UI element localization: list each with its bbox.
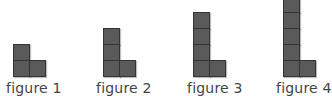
square <box>29 60 46 77</box>
square <box>119 60 136 77</box>
square <box>193 60 210 77</box>
figure-label: figure 2 <box>96 80 152 96</box>
figure-label: figure 3 <box>187 80 243 96</box>
square <box>283 44 300 61</box>
square <box>13 44 30 61</box>
square <box>209 60 226 77</box>
square <box>299 60 316 77</box>
figure-label: figure 1 <box>6 80 62 96</box>
square <box>193 12 210 29</box>
square <box>103 28 120 45</box>
square <box>103 60 120 77</box>
square <box>13 60 30 77</box>
figure-label: figure 4 <box>276 80 332 96</box>
square <box>283 28 300 45</box>
square <box>193 44 210 61</box>
square <box>283 60 300 77</box>
square <box>103 44 120 61</box>
square <box>283 12 300 29</box>
square <box>193 28 210 45</box>
